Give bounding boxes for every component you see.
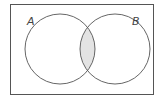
venn-diagram: A B	[0, 0, 159, 99]
set-a-label: A	[26, 15, 35, 28]
set-b-label: B	[132, 15, 140, 28]
